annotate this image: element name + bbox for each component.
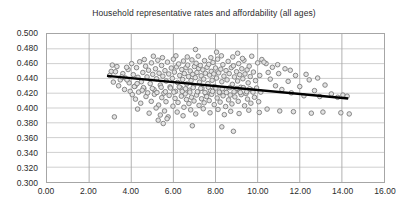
y-tick-label: 0.500 xyxy=(17,28,38,38)
x-tick-label: 4.00 xyxy=(122,186,139,196)
x-tick-label: 2.00 xyxy=(80,186,97,196)
x-tick-label: 14.00 xyxy=(332,186,353,196)
y-tick-label: 0.360 xyxy=(17,133,38,143)
y-tick-label: 0.400 xyxy=(17,103,38,113)
plot-area xyxy=(46,33,385,183)
y-tick-label: 0.480 xyxy=(17,43,38,53)
y-tick-label: 0.420 xyxy=(17,88,38,98)
y-tick-label: 0.340 xyxy=(17,148,38,158)
chart-title: Household representative rates and affor… xyxy=(0,8,408,18)
x-tick-label: 10.00 xyxy=(247,186,268,196)
y-tick-label: 0.460 xyxy=(17,58,38,68)
scatter-data-layer xyxy=(47,34,384,182)
chart-container: Household representative rates and affor… xyxy=(0,0,408,218)
x-axis-tick-labels: 0.002.004.006.008.0010.0012.0014.0016.00 xyxy=(46,186,385,206)
x-tick-label: 12.00 xyxy=(290,186,311,196)
y-tick-label: 0.320 xyxy=(17,163,38,173)
x-tick-label: 6.00 xyxy=(165,186,182,196)
y-axis-tick-labels: 0.3000.3200.3400.3600.3800.4000.4200.440… xyxy=(0,33,42,183)
y-tick-label: 0.300 xyxy=(17,178,38,188)
y-tick-label: 0.440 xyxy=(17,73,38,83)
x-tick-label: 8.00 xyxy=(207,186,224,196)
y-tick-label: 0.380 xyxy=(17,118,38,128)
x-tick-label: 0.00 xyxy=(38,186,55,196)
x-tick-label: 16.00 xyxy=(374,186,395,196)
